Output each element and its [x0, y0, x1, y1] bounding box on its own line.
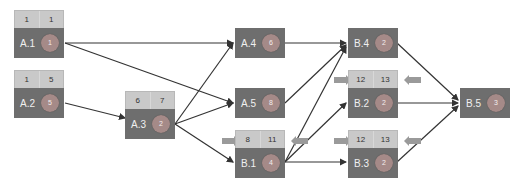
node-times: 67 — [125, 91, 175, 109]
duration-badge: 8 — [262, 94, 280, 112]
node-label: A.4 — [241, 38, 256, 49]
arrow-left-icon — [409, 77, 421, 83]
node-b2[interactable]: 1213 B.22 — [348, 70, 398, 118]
node-label: B.2 — [354, 98, 369, 109]
node-a3[interactable]: 67 A.32 — [125, 91, 175, 139]
node-label: B.5 — [466, 98, 481, 109]
node-a1[interactable]: 11 A.11 — [14, 10, 64, 58]
node-a5[interactable]: A.58 — [235, 88, 285, 118]
duration-badge: 2 — [375, 34, 393, 52]
arrow-right-icon — [334, 138, 346, 144]
node-label: A.2 — [20, 98, 35, 109]
node-b3[interactable]: 1213 B.32 — [348, 130, 398, 178]
node-b4[interactable]: B.42 — [348, 28, 398, 58]
duration-badge: 3 — [487, 94, 505, 112]
node-label: B.3 — [354, 158, 369, 169]
node-times: 15 — [14, 70, 64, 88]
node-a2[interactable]: 15 A.25 — [14, 70, 64, 118]
duration-badge: 2 — [375, 154, 393, 172]
arrow-left-icon — [296, 138, 308, 144]
node-label: B.4 — [354, 38, 369, 49]
duration-badge: 6 — [262, 34, 280, 52]
arrow-right-icon — [334, 77, 346, 83]
node-times: 1213 — [348, 130, 398, 148]
node-b1[interactable]: 811 B.14 — [235, 130, 285, 178]
node-times: 1213 — [348, 70, 398, 88]
node-label: A.5 — [241, 98, 256, 109]
node-label: A.3 — [131, 119, 146, 130]
node-label: A.1 — [20, 38, 35, 49]
node-times: 11 — [14, 10, 64, 28]
node-times: 811 — [235, 130, 285, 148]
duration-badge: 2 — [375, 94, 393, 112]
arrow-left-icon — [409, 138, 421, 144]
node-b5[interactable]: B.53 — [460, 88, 510, 118]
node-label: B.1 — [241, 158, 256, 169]
duration-badge: 5 — [41, 94, 59, 112]
duration-badge: 4 — [262, 154, 280, 172]
duration-badge: 2 — [152, 115, 170, 133]
arrow-right-icon — [222, 138, 234, 144]
node-a4[interactable]: A.46 — [235, 28, 285, 58]
duration-badge: 1 — [41, 34, 59, 52]
